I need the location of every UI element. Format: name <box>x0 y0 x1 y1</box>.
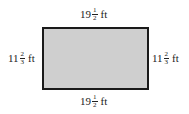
unit: ft <box>28 53 35 64</box>
fraction: 12 <box>92 94 98 109</box>
denominator: 2 <box>93 15 97 22</box>
denominator: 3 <box>165 59 169 66</box>
rectangle <box>42 27 149 90</box>
whole-number: 11 <box>152 53 163 64</box>
fraction: 23 <box>164 51 170 66</box>
unit: ft <box>172 53 179 64</box>
whole-number: 11 <box>8 53 19 64</box>
whole-number: 19 <box>80 9 91 20</box>
right-width-label: 11 23 ft <box>152 51 179 66</box>
fraction: 23 <box>20 51 26 66</box>
fraction: 12 <box>92 7 98 22</box>
top-length-label: 19 12 ft <box>80 7 107 22</box>
whole-number: 19 <box>80 96 91 107</box>
unit: ft <box>101 9 108 20</box>
bottom-length-label: 19 12 ft <box>80 94 107 109</box>
denominator: 2 <box>93 102 97 109</box>
unit: ft <box>101 96 108 107</box>
denominator: 3 <box>21 59 25 66</box>
left-width-label: 11 23 ft <box>8 51 35 66</box>
